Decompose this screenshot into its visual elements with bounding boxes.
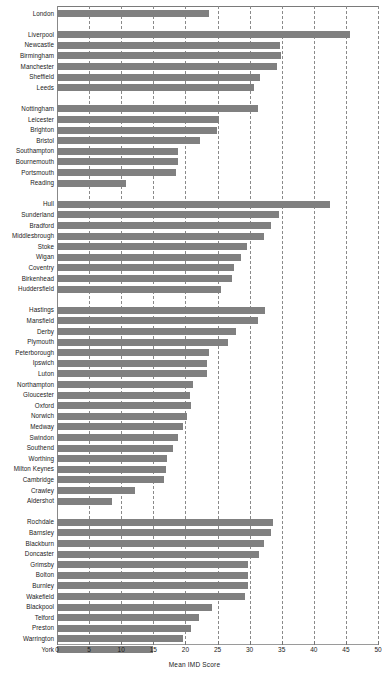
category-label: Reading xyxy=(0,179,54,186)
x-tick-mark-35 xyxy=(282,641,283,645)
bar xyxy=(57,148,178,155)
category-labels: LondonLiverpoolNewcastleBirminghamManche… xyxy=(0,6,54,644)
category-label: Doncaster xyxy=(0,550,54,557)
bar xyxy=(57,286,221,293)
category-label: Mansfield xyxy=(0,317,54,324)
category-label: Luton xyxy=(0,370,54,377)
x-tick-mark-50 xyxy=(378,641,379,645)
category-label: Leeds xyxy=(0,84,54,91)
bar xyxy=(57,42,280,49)
bar xyxy=(57,339,228,346)
bar xyxy=(57,360,207,367)
bar xyxy=(57,455,167,462)
category-label: Sunderland xyxy=(0,211,54,218)
bar xyxy=(57,614,199,621)
x-tick-label-10: 10 xyxy=(118,646,125,653)
bar xyxy=(57,84,254,91)
category-label: Wakefield xyxy=(0,593,54,600)
bar xyxy=(57,31,350,38)
category-label: Aldershot xyxy=(0,497,54,504)
bar xyxy=(57,137,200,144)
x-tick-mark-25 xyxy=(218,641,219,645)
bars xyxy=(57,6,378,644)
category-label: Crawley xyxy=(0,487,54,494)
bar xyxy=(57,551,259,558)
bar xyxy=(57,222,271,229)
bar xyxy=(57,243,247,250)
category-label: Bolton xyxy=(0,571,54,578)
category-label: Preston xyxy=(0,624,54,631)
category-label: Stoke xyxy=(0,243,54,250)
plot-area xyxy=(57,6,378,644)
x-axis-ticks: 05101520253035404550 xyxy=(57,645,378,659)
category-label: Rochdale xyxy=(0,518,54,525)
x-tick-mark-40 xyxy=(314,641,315,645)
x-tick-label-45: 45 xyxy=(342,646,349,653)
bar xyxy=(57,10,209,17)
category-label: Bradford xyxy=(0,222,54,229)
bar xyxy=(57,211,279,218)
bar xyxy=(57,254,241,261)
bar xyxy=(57,63,277,70)
category-label: Bournemouth xyxy=(0,158,54,165)
bar xyxy=(57,392,190,399)
category-label: Portsmouth xyxy=(0,169,54,176)
x-tick-mark-0 xyxy=(57,641,58,645)
bar xyxy=(57,445,173,452)
bar xyxy=(57,423,183,430)
category-label: Wigan xyxy=(0,253,54,260)
category-label: Milton Keynes xyxy=(0,465,54,472)
category-label: Gloucester xyxy=(0,391,54,398)
bar xyxy=(57,529,271,536)
category-label: Cambridge xyxy=(0,476,54,483)
category-label: Norwich xyxy=(0,412,54,419)
category-label: Hull xyxy=(0,200,54,207)
bar xyxy=(57,381,193,388)
category-label: Birkenhead xyxy=(0,275,54,282)
x-tick-label-30: 30 xyxy=(246,646,253,653)
x-axis-title: Mean IMD Score xyxy=(0,661,389,668)
bar xyxy=(57,52,281,59)
category-label: Leicester xyxy=(0,116,54,123)
bar xyxy=(57,264,234,271)
category-label: Southampton xyxy=(0,147,54,154)
bar xyxy=(57,434,178,441)
category-label: Warrington xyxy=(0,635,54,642)
category-label: Nottingham xyxy=(0,105,54,112)
bar xyxy=(57,572,248,579)
category-label: Oxford xyxy=(0,402,54,409)
category-label: York xyxy=(0,646,54,653)
category-label: Derby xyxy=(0,328,54,335)
category-label: London xyxy=(0,10,54,17)
x-tick-label-25: 25 xyxy=(214,646,221,653)
bar xyxy=(57,317,258,324)
bar xyxy=(57,593,245,600)
bar xyxy=(57,169,176,176)
x-tick-mark-30 xyxy=(250,641,251,645)
category-label: Birmingham xyxy=(0,52,54,59)
category-label: Blackpool xyxy=(0,603,54,610)
x-tick-mark-5 xyxy=(89,641,90,645)
category-label: Brighton xyxy=(0,126,54,133)
category-label: Bristol xyxy=(0,137,54,144)
x-tick-label-40: 40 xyxy=(310,646,317,653)
category-label: Swindon xyxy=(0,434,54,441)
bar xyxy=(57,74,260,81)
bar xyxy=(57,487,135,494)
x-tick-label-0: 0 xyxy=(55,646,59,653)
category-label: Sheffield xyxy=(0,73,54,80)
bar xyxy=(57,476,164,483)
category-label: Plymouth xyxy=(0,338,54,345)
bar xyxy=(57,519,273,526)
category-label: Liverpool xyxy=(0,31,54,38)
bar xyxy=(57,180,126,187)
category-label: Southend xyxy=(0,444,54,451)
category-label: Barnsley xyxy=(0,529,54,536)
category-label: Worthing xyxy=(0,455,54,462)
bar xyxy=(57,328,236,335)
bar xyxy=(57,540,264,547)
category-label: Northampton xyxy=(0,381,54,388)
category-label: Manchester xyxy=(0,63,54,70)
bar xyxy=(57,561,248,568)
category-label: Hastings xyxy=(0,306,54,313)
